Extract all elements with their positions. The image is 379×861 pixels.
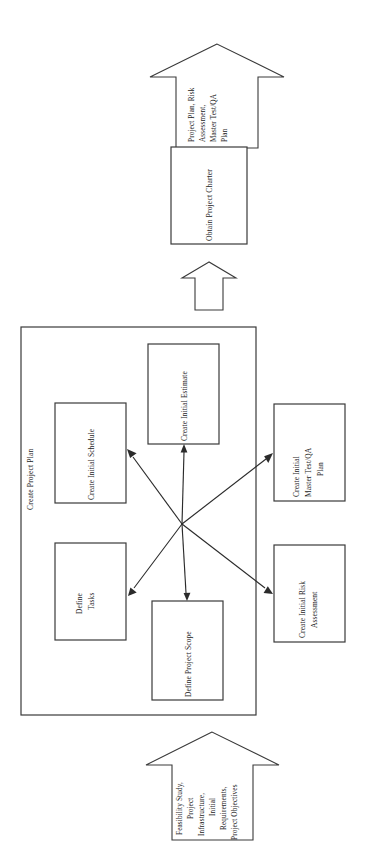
input-block-arrow-group: Feasibility Study, Project Infrastructur… [146, 732, 279, 840]
create-project-plan-label: Create Project Plan [26, 448, 35, 510]
output-block-arrow-group: Project Plan, Risk Assessment, Master Te… [150, 44, 284, 148]
input-arrow-line-5: Project Objectives [231, 784, 239, 840]
define-tasks-box[interactable] [55, 543, 126, 640]
input-arrow-line-1: Project [187, 798, 195, 819]
define-tasks-line-0: Define [75, 592, 84, 614]
create-initial-master-test-qa-plan-node[interactable]: Create Initial Master Test/QA Plan [274, 404, 345, 501]
define-tasks-line-1: Tasks [87, 593, 96, 610]
master-test-qa-line-0: Create Initial [292, 456, 301, 497]
diagram-canvas: Project Plan, Risk Assessment, Master Te… [0, 0, 379, 861]
input-arrow-line-0: Feasibility Study, [176, 782, 184, 835]
output-arrow-line-3: Plan [221, 128, 229, 142]
output-arrow-line-1: Assessment, [199, 105, 207, 142]
define-project-scope-label: Define Project Scope [184, 631, 193, 697]
flow-block-arrow-group [182, 262, 236, 310]
obtain-project-charter-node[interactable]: Obtain Project Charter [171, 147, 247, 244]
create-initial-risk-assessment-node[interactable]: Create Initial Risk Assessment [274, 545, 345, 642]
create-initial-estimate-label: Create Initial Estimate [180, 370, 189, 441]
define-project-scope-node[interactable]: Define Project Scope [152, 601, 223, 700]
flow-block-arrow [182, 262, 236, 310]
output-arrow-line-0: Project Plan, Risk [188, 87, 196, 142]
create-initial-estimate-node[interactable]: Create Initial Estimate [148, 344, 219, 444]
define-tasks-node[interactable]: Define Tasks [55, 543, 126, 640]
arrowhead-master-test-qa [264, 453, 273, 463]
risk-assessment-line-0: Create Initial Risk [298, 581, 307, 638]
input-arrow-line-2: Infrastructure, [198, 793, 206, 836]
risk-assessment-line-1: Assessment [310, 591, 319, 628]
input-arrow-line-4: Requirements, [220, 786, 228, 830]
flow-diagram: Project Plan, Risk Assessment, Master Te… [0, 0, 379, 861]
input-arrow-line-3: Initial [209, 798, 217, 816]
create-initial-schedule-node[interactable]: Create Initial Schedule [55, 403, 126, 503]
output-arrow-line-2: Master Test/QA [210, 93, 218, 142]
input-block-arrow [146, 732, 279, 840]
master-test-qa-line-2: Plan [316, 462, 325, 476]
create-initial-schedule-label: Create Initial Schedule [87, 428, 96, 500]
obtain-project-charter-label: Obtain Project Charter [205, 169, 214, 241]
master-test-qa-line-1: Master Test/QA [304, 447, 313, 497]
